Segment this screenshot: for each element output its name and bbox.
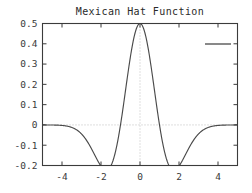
chart-background [0,0,252,193]
chart-container: Mexican Hat Function -4-2024 0.50.40.30.… [0,0,252,193]
x-tick-label: 0 [137,171,143,182]
y-tick-label: 0.3 [20,58,37,69]
y-tick-label: -0.1 [15,140,38,151]
x-tick-label: -4 [56,171,68,182]
mexican-hat-line-chart: Mexican Hat Function -4-2024 0.50.40.30.… [0,0,252,193]
y-tick-label: -0.2 [15,160,38,171]
x-tick-label: 2 [176,171,182,182]
x-tick-label: 4 [215,171,221,182]
y-tick-label: 0.2 [20,79,37,90]
y-tick-label: 0 [32,119,38,130]
y-tick-label: 0.1 [20,99,37,110]
chart-title: Mexican Hat Function [76,6,204,17]
x-tick-label: -2 [95,171,106,182]
y-tick-label: 0.4 [20,38,37,49]
y-tick-label: 0.5 [20,18,37,29]
